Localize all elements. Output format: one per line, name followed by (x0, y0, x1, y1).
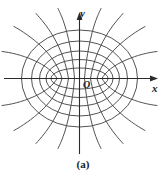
coordinate-diagram-svg (0, 0, 166, 183)
axes-group (4, 12, 158, 154)
hyperbola-branch-right-4-lower (102, 79, 157, 106)
hyperbola-branch-left-4 (2, 52, 57, 79)
hyperbola-branch-left-4-lower (2, 79, 57, 106)
y-axis-label: y (80, 8, 85, 19)
x-axis-label: x (152, 83, 158, 94)
figure-caption: (a) (0, 159, 166, 170)
origin-label: O (83, 80, 90, 90)
confocal-conics-figure: y x O (a) (0, 0, 166, 183)
x-axis-arrowhead-icon (150, 76, 158, 82)
hyperbola-branch-right-4 (102, 52, 157, 79)
